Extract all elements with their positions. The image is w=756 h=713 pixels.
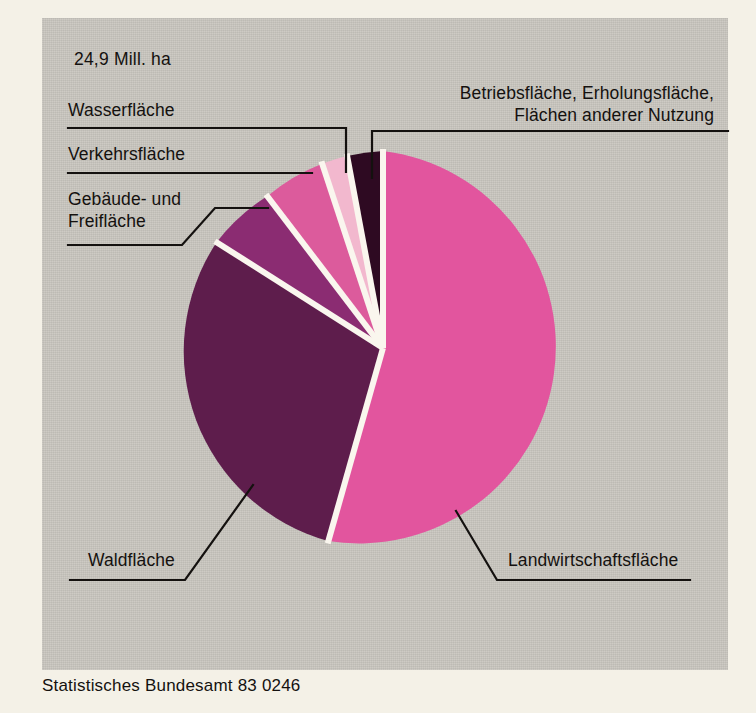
callout-label-gebaeude-freiflaeche: Gebäude- und Freifläche [68, 188, 181, 232]
callout-label-waldflaeche: Waldfläche [88, 549, 175, 571]
callout-label-betriebsflaeche: Betriebsfläche, Erholungsfläche, Flächen… [460, 82, 714, 126]
callout-label-wasserflaeche: Wasserfläche [68, 99, 175, 121]
source-caption: Statistisches Bundesamt 83 0246 [42, 676, 301, 696]
callout-label-landwirtschaftsflaeche: Landwirtschaftsfläche [508, 549, 678, 571]
callout-label-verkehrsflaeche: Verkehrsfläche [68, 143, 185, 165]
leader-line-betriebsflaeche [372, 131, 728, 178]
total-area-label: 24,9 Mill. ha [74, 48, 171, 70]
page-background: 24,9 Mill. ha Wasserfläche Verkehrsfläch… [0, 0, 756, 713]
